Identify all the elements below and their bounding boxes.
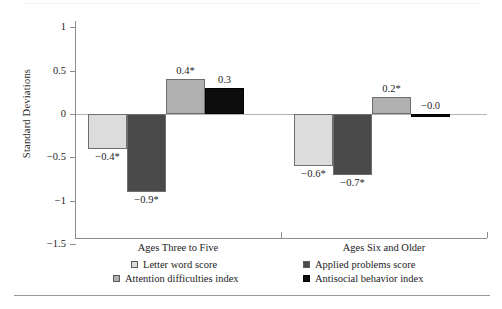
bar bbox=[205, 88, 244, 114]
legend-label: Antisocial behavior index bbox=[315, 273, 423, 284]
figure-container: Standard Deviations 10.50−0.5−1−1.5 −0.4… bbox=[0, 0, 502, 309]
bar-value-label: −0.7* bbox=[320, 178, 385, 189]
chart-legend: Letter word scoreApplied problems scoreA… bbox=[131, 259, 461, 289]
legend-swatch-icon bbox=[303, 261, 310, 268]
bar bbox=[88, 114, 127, 149]
bar-value-label: 0.2* bbox=[359, 84, 424, 95]
legend-item[interactable]: Letter word score bbox=[131, 259, 217, 270]
legend-item[interactable]: Attention difficulties index bbox=[113, 273, 239, 284]
bar-value-label: −0.0 bbox=[398, 101, 463, 112]
bar bbox=[333, 114, 372, 175]
legend-swatch-icon bbox=[131, 261, 138, 268]
legend-swatch-icon bbox=[303, 275, 310, 282]
bars-layer: −0.4*−0.9*0.4*0.3−0.6*−0.7*0.2*−0.0 bbox=[0, 0, 502, 250]
legend-item[interactable]: Applied problems score bbox=[303, 259, 415, 270]
legend-label: Applied problems score bbox=[315, 259, 415, 270]
bar-value-label: −0.9* bbox=[114, 195, 179, 206]
legend-item[interactable]: Antisocial behavior index bbox=[303, 273, 423, 284]
legend-label: Letter word score bbox=[143, 259, 217, 270]
bar bbox=[411, 114, 450, 117]
bar-value-label: 0.3 bbox=[192, 75, 257, 86]
legend-swatch-icon bbox=[113, 275, 120, 282]
bottom-divider bbox=[14, 295, 490, 296]
x-axis-category-label: Ages Three to Five bbox=[75, 242, 281, 253]
x-axis-category-label: Ages Six and Older bbox=[281, 242, 487, 253]
plot-area: Standard Deviations 10.50−0.5−1−1.5 −0.4… bbox=[0, 0, 502, 250]
legend-label: Attention difficulties index bbox=[125, 273, 239, 284]
bar bbox=[294, 114, 333, 166]
bar bbox=[127, 114, 166, 192]
